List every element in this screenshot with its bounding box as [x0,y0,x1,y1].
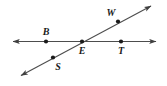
point-t [119,39,123,43]
point-label-b: B [42,26,50,37]
point-label-w: W [107,7,117,18]
point-w [116,19,120,23]
point-label-t: T [118,45,125,56]
point-s [51,55,55,59]
point-b [44,39,48,43]
point-label-s: S [55,61,61,72]
geometry-figure: B E T W S [0,0,167,86]
geometry-canvas: B E T W S [0,0,167,86]
point-e [80,39,84,43]
point-label-e: E [78,45,86,56]
diagonal-line [21,6,151,76]
labels-group: B E T W S [42,7,125,72]
lines-group [13,6,156,76]
